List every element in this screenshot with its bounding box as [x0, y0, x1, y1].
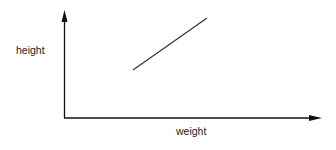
x-axis-arrow-icon	[309, 115, 322, 121]
data-line	[133, 18, 207, 70]
y-axis-label: height	[16, 44, 45, 56]
y-axis-arrow-icon	[62, 10, 68, 22]
diagram-canvas	[0, 0, 336, 150]
x-axis-label: weight	[176, 125, 206, 137]
